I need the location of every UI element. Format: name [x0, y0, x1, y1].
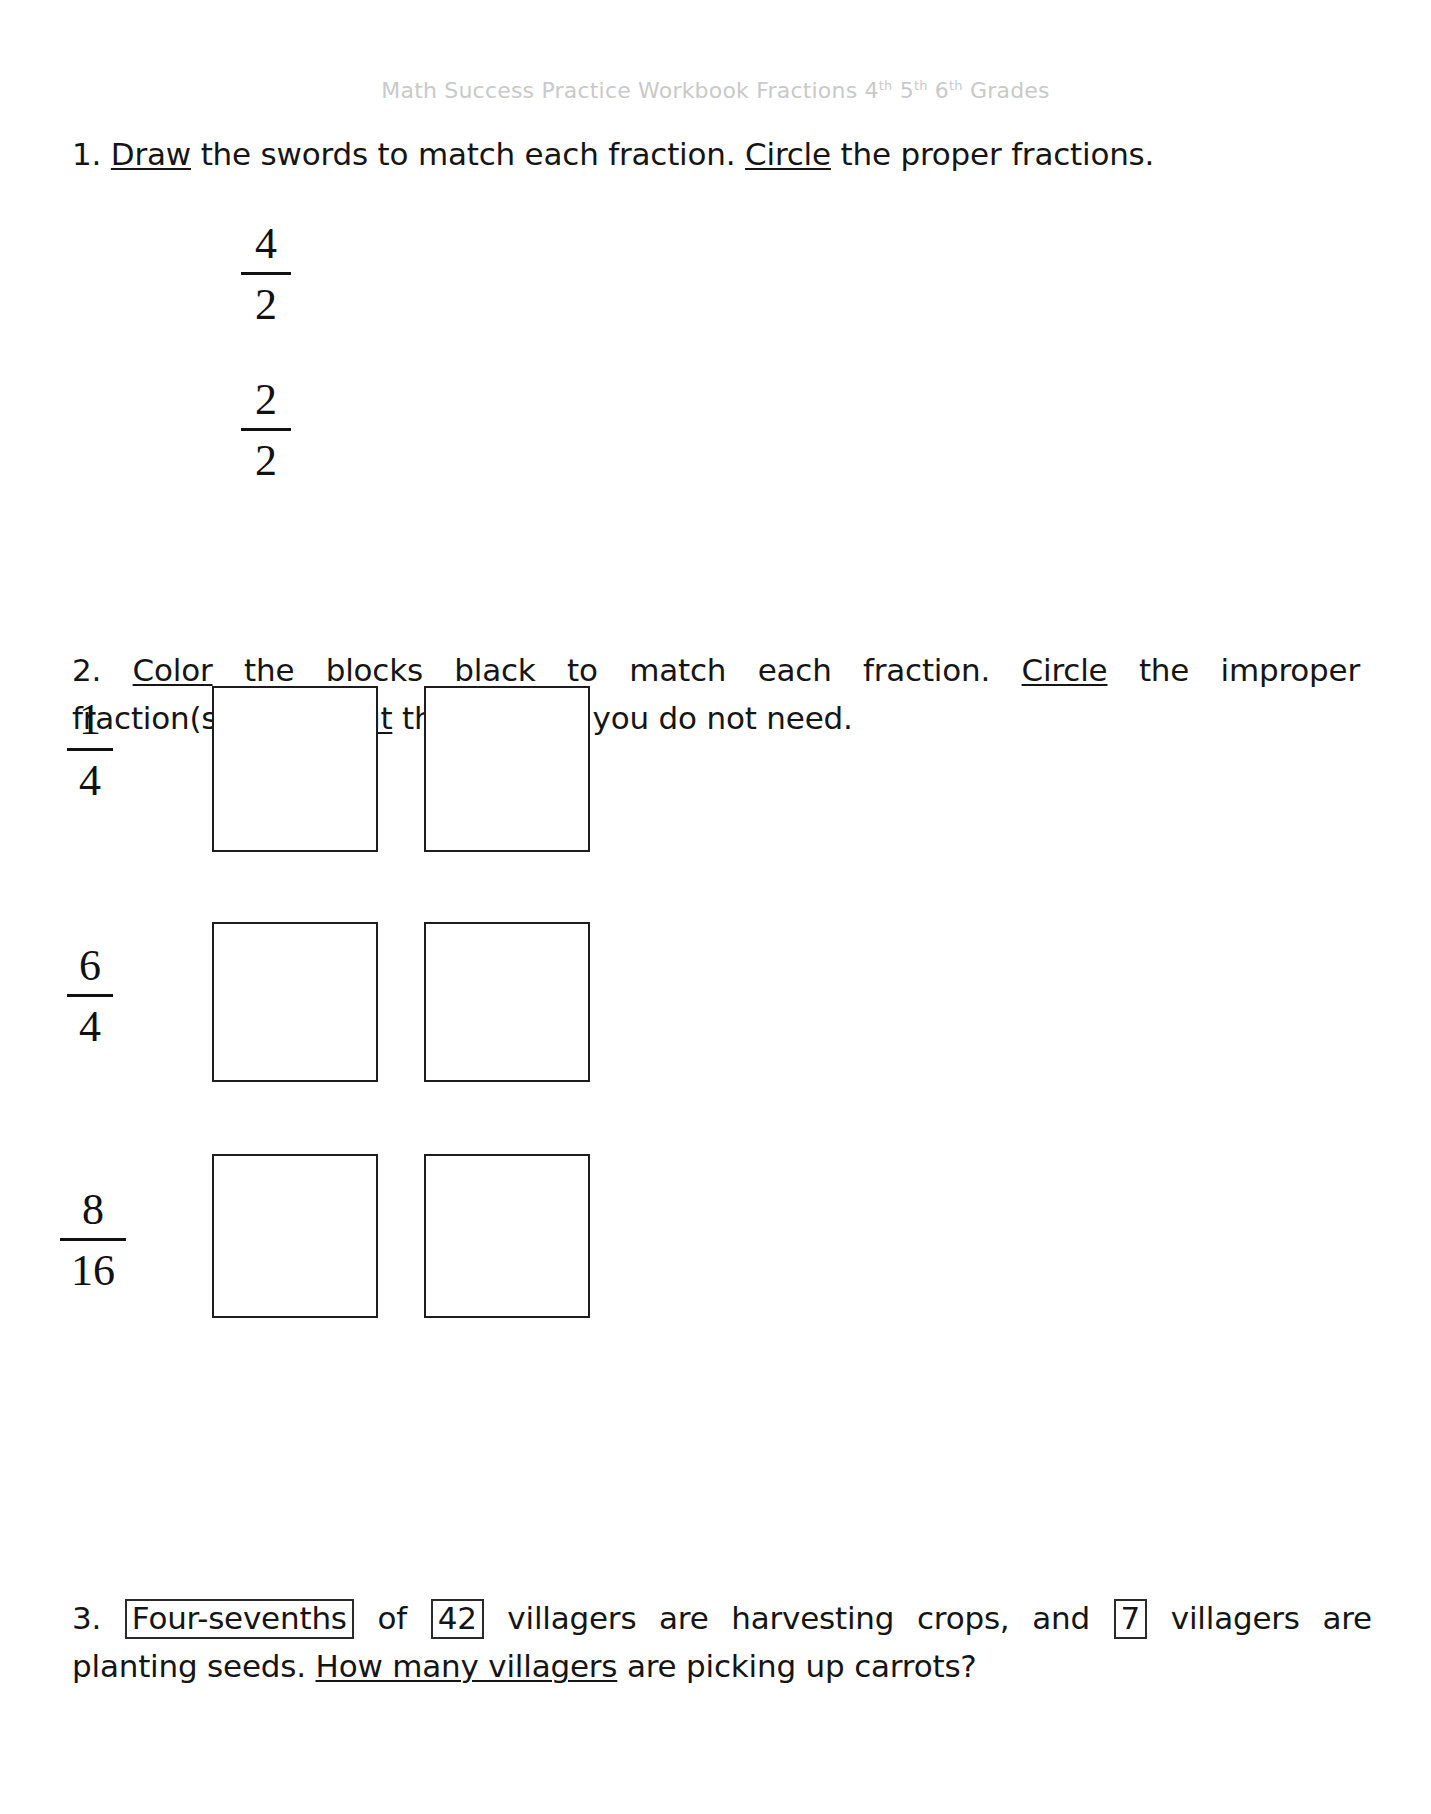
fraction-numerator: 6	[62, 944, 118, 990]
fraction-bar	[67, 994, 113, 997]
header-title-text: Math Success Practice Workbook Fractions	[381, 78, 864, 103]
header-grade-4: 4	[865, 78, 879, 103]
color-block-row1-col2[interactable]	[424, 686, 590, 852]
fraction-denominator: 4	[62, 1003, 118, 1049]
q3-text-part-1: 3.	[72, 1600, 124, 1636]
q3-text-part-3: villagers are harvesting crops, and	[485, 1600, 1113, 1636]
fraction-bar	[241, 428, 291, 431]
question-3-prompt: 3. Four-sevenths of 42 villagers are har…	[72, 1594, 1372, 1690]
worksheet-page: Math Success Practice Workbook Fractions…	[0, 0, 1431, 1814]
q3-text-part-2: of	[355, 1600, 430, 1636]
q3-prompt-line-1: 3. Four-sevenths of 42 villagers are har…	[72, 1594, 1372, 1642]
q3-boxed-planting-villagers: 7	[1114, 1599, 1148, 1639]
q2-text-part-1: 2.	[72, 652, 133, 688]
q3-keyword-how-many-villagers: How many villagers	[316, 1648, 618, 1684]
q3-boxed-fraction-word: Four-sevenths	[125, 1599, 354, 1639]
q2-keyword-circle: Circle	[1022, 652, 1108, 688]
fraction-q1-row-2: 2 2	[238, 378, 294, 483]
header-grade-5-suffix: th	[914, 78, 928, 93]
q1-text-part-2: the swords to match each fraction.	[191, 136, 745, 172]
q1-text-part-3: the proper fractions.	[831, 136, 1154, 172]
fraction-q1-row-1: 4 2	[238, 222, 294, 327]
q1-keyword-circle: Circle	[745, 136, 831, 172]
q3-text-part-5: planting seeds.	[72, 1648, 316, 1684]
q2-text-part-2: the blocks black to match each fraction.	[213, 652, 1022, 688]
question-1-prompt: 1. Draw the swords to match each fractio…	[72, 130, 1362, 178]
color-block-row3-col1[interactable]	[212, 1154, 378, 1318]
header-grade-4-suffix: th	[879, 78, 893, 93]
header-title-suffix: Grades	[963, 78, 1050, 103]
q1-text-part-1: 1.	[72, 136, 111, 172]
fraction-denominator: 2	[238, 437, 294, 483]
fraction-denominator: 2	[238, 281, 294, 327]
fraction-q2-row-1: 1 4	[62, 698, 118, 803]
fraction-bar	[67, 748, 113, 751]
q2-keyword-color: Color	[133, 652, 213, 688]
fraction-bar	[60, 1238, 126, 1241]
fraction-numerator: 4	[238, 222, 294, 268]
q1-keyword-draw: Draw	[111, 136, 191, 172]
color-block-row1-col1[interactable]	[212, 686, 378, 852]
color-block-row2-col1[interactable]	[212, 922, 378, 1082]
q3-prompt-line-2: planting seeds. How many villagers are p…	[72, 1642, 1372, 1690]
header-grade-6: 6	[935, 78, 949, 103]
fraction-numerator: 8	[58, 1188, 128, 1234]
color-block-row3-col2[interactable]	[424, 1154, 590, 1318]
fraction-bar	[241, 272, 291, 275]
header-grade-5: 5	[900, 78, 914, 103]
q3-text-part-4: villagers are	[1148, 1600, 1372, 1636]
fraction-numerator: 2	[238, 378, 294, 424]
page-header: Math Success Practice Workbook Fractions…	[0, 78, 1431, 103]
q2-text-part-3: the improper	[1107, 652, 1360, 688]
header-grade-6-suffix: th	[949, 78, 963, 93]
fraction-q2-row-3: 8 16	[58, 1188, 128, 1293]
fraction-q2-row-2: 6 4	[62, 944, 118, 1049]
q3-text-part-6: are picking up carrots?	[617, 1648, 976, 1684]
color-block-row2-col2[interactable]	[424, 922, 590, 1082]
fraction-numerator: 1	[62, 698, 118, 744]
q3-boxed-total-villagers: 42	[431, 1599, 484, 1639]
fraction-denominator: 4	[62, 757, 118, 803]
fraction-denominator: 16	[58, 1247, 128, 1293]
